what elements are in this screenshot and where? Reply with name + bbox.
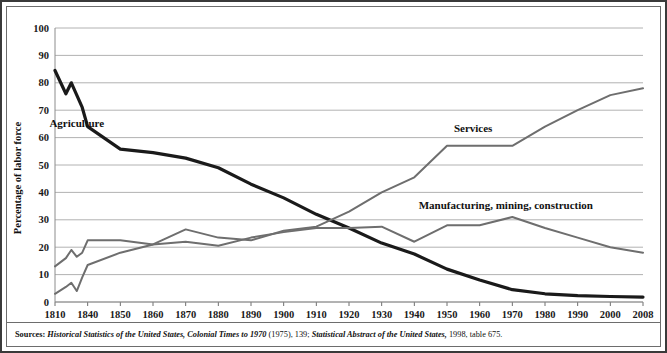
xaxis-tick-labels-group: 1810184018501860187018801890190019101920…: [45, 309, 654, 320]
series-annotations-group: AgricultureManufacturing, mining, constr…: [49, 117, 593, 211]
series-label-manufacturing: Manufacturing, mining, construction: [419, 199, 593, 211]
xaxis-tick-1880: 1880: [208, 309, 229, 320]
series-label-agriculture: Agriculture: [49, 117, 104, 129]
source-part-2: (1975), 139;: [266, 330, 311, 339]
yaxis-tick-50: 50: [39, 160, 50, 171]
yaxis-tick-80: 80: [39, 77, 50, 88]
xaxis-tick-1810: 1810: [45, 309, 66, 320]
yaxis-tick-30: 30: [39, 214, 50, 225]
xaxis-tick-1990: 1990: [567, 309, 588, 320]
yaxis-tick-100: 100: [33, 23, 49, 34]
yaxis-tick-70: 70: [39, 105, 50, 116]
series-line-services: [55, 88, 643, 266]
xaxis-tick-1850: 1850: [110, 309, 131, 320]
xaxis-tick-1860: 1860: [143, 309, 164, 320]
xaxis-tick-1890: 1890: [241, 309, 262, 320]
yaxis-tick-20: 20: [39, 242, 50, 253]
xaxis-tick-1940: 1940: [404, 309, 425, 320]
yaxis-tick-labels-group: 0102030405060708090100: [33, 23, 49, 308]
xaxis-tick-1910: 1910: [306, 309, 327, 320]
yaxis-tick-90: 90: [39, 50, 50, 61]
xaxis-tick-1900: 1900: [273, 309, 294, 320]
labor-force-line-chart: 0102030405060708090100 18101840185018601…: [8, 8, 659, 349]
source-part-3: Statistical Abstract of the United State…: [312, 330, 447, 339]
yaxis-tick-40: 40: [39, 187, 50, 198]
xaxis-tickmarks-group: [55, 302, 643, 306]
yaxis-tick-60: 60: [39, 132, 50, 143]
xaxis-tick-1870: 1870: [175, 309, 196, 320]
series-line-agriculture: [55, 70, 643, 297]
xaxis-tick-1840: 1840: [77, 309, 98, 320]
series-label-services: Services: [454, 122, 493, 134]
chart-canvas: 0102030405060708090100 18101840185018601…: [8, 8, 659, 349]
chart-frame: 0102030405060708090100 18101840185018601…: [0, 0, 667, 353]
yaxis-tick-10: 10: [39, 269, 50, 280]
source-part-1: Historical Statistics of the United Stat…: [47, 330, 266, 339]
xaxis-tick-2008: 2008: [633, 309, 654, 320]
yaxis-title: Percentage of labor force: [12, 122, 23, 235]
source-part-4: 1998, table 675.: [447, 330, 503, 339]
source-lead: Sources:: [15, 330, 45, 339]
yaxis-tick-0: 0: [44, 297, 49, 308]
gridlines-group: [55, 28, 643, 302]
source-note-text: Sources: Historical Statistics of the Un…: [15, 330, 502, 339]
series-line-manufacturing: [55, 217, 643, 294]
data-series-group: [55, 70, 643, 297]
xaxis-tick-1920: 1920: [339, 309, 360, 320]
xaxis-tick-1970: 1970: [502, 309, 523, 320]
xaxis-tick-2000: 2000: [600, 309, 621, 320]
source-note-bar: Sources: Historical Statistics of the Un…: [7, 322, 660, 346]
xaxis-tick-1980: 1980: [535, 309, 556, 320]
xaxis-tick-1960: 1960: [469, 309, 490, 320]
xaxis-tick-1950: 1950: [437, 309, 458, 320]
xaxis-tick-1930: 1930: [371, 309, 392, 320]
